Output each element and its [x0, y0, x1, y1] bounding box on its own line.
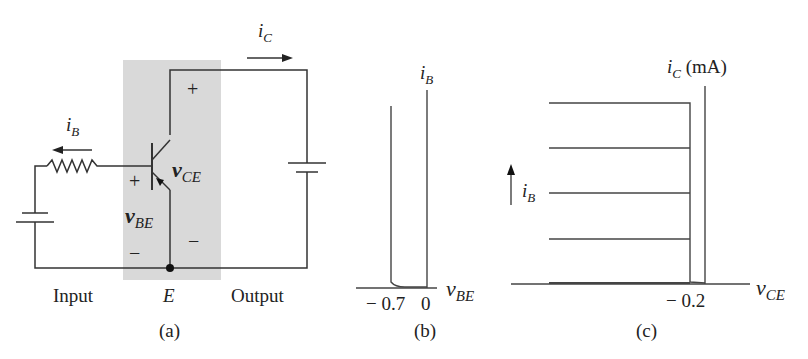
- panel-c-plot: [511, 86, 750, 284]
- vbe-axis-label: vBE: [446, 276, 474, 305]
- tick-zero: 0: [421, 293, 431, 315]
- ic-label: iC: [258, 20, 272, 46]
- input-label: Input: [53, 285, 93, 307]
- ic-arrow-icon: [282, 54, 293, 62]
- caption-c: (c): [636, 320, 657, 342]
- vbe-label: vBE: [125, 203, 153, 232]
- caption-b: (b): [414, 320, 436, 342]
- ib-increase-arrow-icon: [507, 164, 515, 175]
- ib-arrow-icon: [52, 146, 63, 154]
- ib-increase-label: iB: [522, 180, 535, 206]
- ib-axis-label: iB: [420, 62, 433, 88]
- emitter-node: [166, 264, 174, 272]
- vbe-plus: +: [129, 170, 140, 193]
- vbe-minus: −: [129, 242, 140, 265]
- tick-neg07: − 0.7: [366, 293, 405, 315]
- vce-label: vCE: [172, 157, 201, 186]
- panel-b-plot: [356, 90, 437, 288]
- vce-axis-label: vCE: [756, 275, 785, 304]
- vce-minus: −: [188, 230, 199, 253]
- vce-plus: +: [187, 78, 198, 101]
- ib-label: iB: [66, 114, 79, 140]
- emitter-label: E: [163, 285, 175, 307]
- caption-a: (a): [159, 320, 180, 342]
- output-label: Output: [231, 285, 284, 307]
- tick-neg02: − 0.2: [666, 290, 705, 312]
- ic-axis-label: iC (mA): [667, 56, 727, 82]
